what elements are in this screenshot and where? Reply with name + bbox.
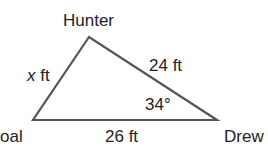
vertex-label-drew: Drew [224, 128, 264, 145]
side-label-right: 24 ft [149, 57, 182, 74]
triangle-diagram: Hunter oal Drew x ft 24 ft 26 ft 34° [0, 0, 268, 150]
vertex-label-goal: oal [0, 128, 23, 145]
side-label-left: x ft [27, 67, 50, 84]
angle-label: 34° [145, 96, 171, 113]
side-label-bottom: 26 ft [105, 128, 138, 145]
side-unit: ft [36, 66, 50, 85]
vertex-label-hunter: Hunter [63, 12, 114, 29]
side-variable: x [27, 66, 36, 85]
